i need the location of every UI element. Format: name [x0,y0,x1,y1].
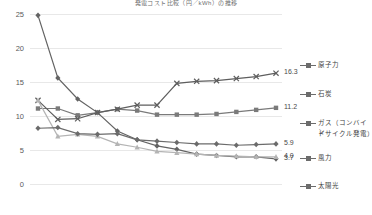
legend-item-gas-line2: ドサイクル発電） [318,130,372,139]
legend-label: 太陽光 [318,182,339,191]
data-point [135,108,139,112]
end-value-label: 5.9 [284,139,294,146]
end-value-label: 11.2 [284,103,297,110]
end-value-label: 4.0 [284,152,294,159]
data-point [36,106,40,110]
legend-marker-icon [300,61,316,70]
legend-item-coal[interactable]: 石炭 [300,90,332,99]
data-point [273,141,278,147]
legend-label: ドサイクル発電） [318,130,372,139]
data-point [254,142,259,148]
chart-container: 発電コスト比較（円／kWh）の推移 25 20 15 10 5 0 3.711.… [0,0,372,215]
legend-marker-icon [300,182,316,191]
data-point [174,140,179,146]
y-axis-tick: 0 [0,180,24,189]
data-point [194,112,198,116]
data-point [135,137,140,143]
data-point [56,106,60,110]
legend-item-wind[interactable]: 風力 [300,154,332,163]
series-line [38,15,276,158]
legend-label: 風力 [318,154,332,163]
data-point [35,13,40,19]
legend-label: 石炭 [318,90,332,99]
y-axis-tick: 5 [0,146,24,155]
chart-legend: 原子力 石炭 ガス（コンバイン ドサイクル発電） 風力 太陽光 [300,0,372,215]
legend-marker-icon [300,154,316,163]
data-point [154,138,159,144]
plot-area: 25 20 15 10 5 0 [30,4,282,208]
legend-label: 原子力 [318,61,339,70]
legend-marker-icon [300,119,316,128]
y-axis-tick: 15 [0,78,24,87]
legend-item-solar[interactable]: 太陽光 [300,182,339,191]
legend-item-nuclear[interactable]: 原子力 [300,61,339,70]
data-point [234,142,239,148]
data-point [194,141,199,147]
data-point [214,112,218,116]
y-axis-tick: 20 [0,44,24,53]
series-layer [30,4,282,208]
data-point [155,112,159,116]
data-point [254,108,258,112]
y-axis-tick: 25 [0,10,24,19]
data-point [175,112,179,116]
data-point [55,125,60,131]
data-point [35,125,40,131]
end-value-label: 16.3 [284,68,298,75]
legend-marker-icon [300,90,316,99]
data-point [214,141,219,147]
data-point [234,110,238,114]
y-axis-tick: 10 [0,112,24,121]
data-point [274,106,278,110]
